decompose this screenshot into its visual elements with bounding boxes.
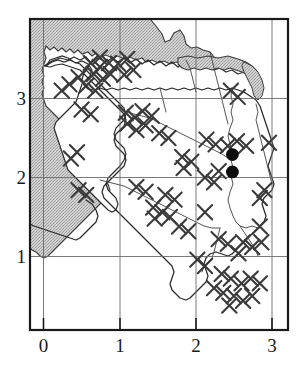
- marker-cross: [148, 211, 162, 225]
- marker-cross: [55, 83, 69, 97]
- ytick-label-3: 3: [8, 89, 26, 108]
- map-canvas: [0, 0, 298, 375]
- water-arm-northeast: [242, 62, 264, 100]
- marker-cross: [198, 205, 212, 219]
- xtick-label-3: 3: [261, 336, 283, 355]
- xtick-label-1: 1: [109, 336, 131, 355]
- marker-cross: [103, 67, 117, 81]
- marker-cross: [231, 90, 245, 104]
- marker-cross: [253, 191, 267, 205]
- xtick-label-0: 0: [33, 336, 55, 355]
- marker-cross: [262, 136, 276, 150]
- xtick-label-2: 2: [185, 336, 207, 355]
- marker-cross: [120, 117, 134, 131]
- ytick-label-2: 2: [8, 168, 26, 187]
- marker-filled-circle: [226, 166, 239, 179]
- river-tributary-2: [160, 88, 166, 112]
- axis-ticks: [44, 318, 273, 330]
- series-positive-record: [226, 148, 239, 178]
- marker-cross: [176, 161, 190, 175]
- marker-filled-circle: [226, 148, 239, 161]
- ytick-label-1: 1: [8, 247, 26, 266]
- distribution-map-figure: 0 1 2 3 1 2 3: [0, 0, 298, 375]
- marker-cross: [257, 183, 271, 197]
